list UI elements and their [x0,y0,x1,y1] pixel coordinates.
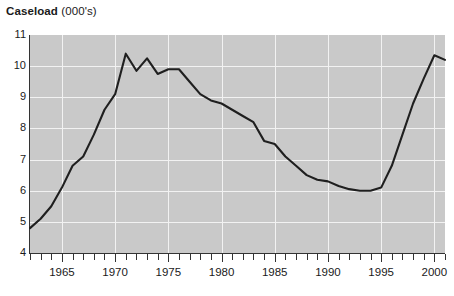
gridline-vertical [381,35,382,253]
x-axis-tick-mark [30,254,31,260]
x-axis-tick-mark [73,254,74,260]
gridline-vertical [222,35,223,253]
x-axis-tick-mark [115,254,116,262]
x-axis-tick-mark [232,254,233,260]
x-axis-tick-label: 1975 [148,266,188,278]
x-axis-tick-mark [349,254,350,260]
x-axis-tick-mark [253,254,254,260]
x-axis-tick-label: 1990 [308,266,348,278]
x-axis-tick-mark [41,254,42,260]
x-axis-tick-mark [381,254,382,262]
x-axis-tick-mark [83,254,84,260]
plot-area [30,35,445,253]
chart-title-units: (000's) [61,5,97,17]
x-axis-tick-mark [328,254,329,262]
x-axis-line [29,253,445,254]
gridline-vertical [275,35,276,253]
x-axis-tick-mark [94,254,95,260]
y-axis-tick-label: 8 [0,122,26,133]
x-axis-tick-mark [307,254,308,260]
gridline-vertical [115,35,116,253]
x-axis-tick-label: 1970 [95,266,135,278]
gridline-vertical [62,35,63,253]
x-axis-tick-label: 1985 [255,266,295,278]
x-axis-tick-mark [168,254,169,262]
x-axis-tick-mark [317,254,318,260]
x-axis-tick-mark [136,254,137,260]
x-axis-tick-mark [424,254,425,260]
x-axis-tick-label: 2000 [414,266,454,278]
x-axis-tick-mark [211,254,212,260]
gridline-vertical [168,35,169,253]
chart-figure: Caseload (000's) 1110987654 196519701975… [0,0,454,296]
x-axis-tick-mark [371,254,372,260]
x-axis-tick-label: 1965 [42,266,82,278]
y-axis-line [29,35,30,254]
x-axis-tick-mark [126,254,127,260]
x-axis-tick-mark [243,254,244,260]
chart-title-main: Caseload [6,5,58,17]
x-axis-tick-mark [200,254,201,260]
x-axis-tick-mark [158,254,159,260]
x-axis-tick-mark [51,254,52,260]
gridline-horizontal [30,66,445,67]
x-axis-tick-mark [434,254,435,262]
gridline-vertical [328,35,329,253]
x-axis-tick-mark [62,254,63,262]
x-axis-tick-mark [339,254,340,260]
gridline-horizontal [30,222,445,223]
x-axis-tick-label: 1980 [202,266,242,278]
gridline-horizontal [30,128,445,129]
x-axis-tick-mark [104,254,105,260]
x-axis-tick-mark [147,254,148,260]
y-axis-tick-label: 4 [0,247,26,258]
x-axis-tick-mark [222,254,223,262]
x-axis-tick-mark [179,254,180,260]
x-axis-tick-mark [402,254,403,260]
x-axis-tick-mark [360,254,361,260]
x-axis-tick-mark [296,254,297,260]
y-axis-tick-label: 9 [0,91,26,102]
y-axis-tick-label: 10 [0,60,26,71]
gridline-horizontal [30,160,445,161]
gridline-horizontal [30,191,445,192]
x-axis-tick-mark [392,254,393,260]
gridline-horizontal [30,97,445,98]
x-axis-tick-mark [275,254,276,262]
x-axis-tick-mark [285,254,286,260]
y-axis-tick-label: 11 [0,29,26,40]
gridline-vertical [434,35,435,253]
y-axis-tick-label: 7 [0,154,26,165]
x-axis-tick-mark [190,254,191,260]
chart-title: Caseload (000's) [6,4,97,18]
y-axis-tick-label: 6 [0,185,26,196]
x-axis-tick-label: 1995 [361,266,401,278]
x-axis-tick-mark [445,254,446,260]
x-axis-tick-mark [264,254,265,260]
x-axis-tick-mark [413,254,414,260]
y-axis-tick-label: 5 [0,216,26,227]
